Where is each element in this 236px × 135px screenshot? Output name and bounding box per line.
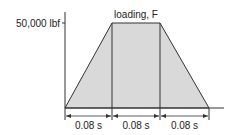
y-tick-label: 50,000 lbf (16, 18, 60, 29)
interval-label-2: 0.08 s (122, 120, 149, 131)
dimension-2 (113, 114, 159, 118)
dimension-3 (161, 114, 208, 118)
loading-area (65, 23, 209, 108)
dimension-1 (66, 114, 111, 118)
interval-label-1: 0.08 s (75, 120, 102, 131)
trapezoidal-loading-diagram: 50,000 lbf loading, F 0.08 s 0.08 s 0.08… (0, 0, 236, 135)
curve-label: loading, F (114, 9, 158, 20)
interval-label-3: 0.08 s (171, 120, 198, 131)
